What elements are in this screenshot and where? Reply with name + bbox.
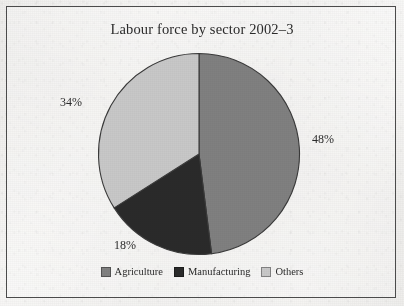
figure-canvas: Labour force by sector 2002–3 48% 34% 18… xyxy=(0,0,404,306)
pie-svg xyxy=(97,52,301,256)
legend-swatch-agriculture xyxy=(101,267,111,277)
legend-swatch-others xyxy=(261,267,271,277)
slice-value-label-others: 34% xyxy=(60,95,82,110)
chart-legend: AgricultureManufacturingOthers xyxy=(0,266,404,277)
slice-value-label-agriculture: 48% xyxy=(312,132,334,147)
pie-slice-group xyxy=(99,53,300,254)
pie-slice-agriculture xyxy=(199,53,300,253)
legend-label-manufacturing: Manufacturing xyxy=(188,266,250,277)
legend-item-others: Others xyxy=(261,266,303,277)
chart-title: Labour force by sector 2002–3 xyxy=(0,21,404,38)
legend-label-others: Others xyxy=(275,266,303,277)
legend-label-agriculture: Agriculture xyxy=(115,266,163,277)
slice-value-label-manufacturing: 18% xyxy=(114,238,136,253)
pie-chart xyxy=(97,52,301,256)
legend-swatch-manufacturing xyxy=(174,267,184,277)
legend-item-agriculture: Agriculture xyxy=(101,266,163,277)
legend-item-manufacturing: Manufacturing xyxy=(174,266,250,277)
